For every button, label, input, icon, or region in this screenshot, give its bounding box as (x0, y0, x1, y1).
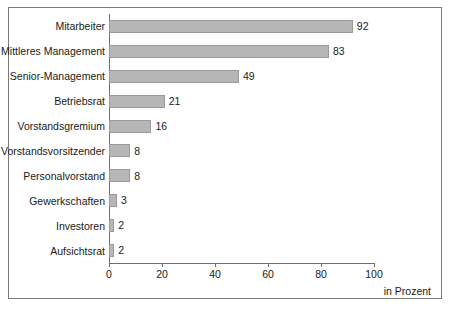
bar-value-label: 49 (243, 71, 255, 82)
x-tick-label: 80 (315, 268, 327, 280)
plot-area: 92 83 49 21 16 8 8 3 (109, 14, 374, 263)
bar-value-label: 92 (357, 21, 369, 32)
bar-row: 2 (109, 238, 374, 263)
category-label: Investoren (1, 213, 105, 238)
category-axis-labels: Mitarbeiter Mittleres Management Senior-… (0, 14, 105, 263)
bar-row: 21 (109, 89, 374, 114)
bar (109, 45, 329, 58)
x-tick-label: 0 (106, 268, 112, 280)
category-label: Senior-Management (1, 64, 105, 89)
x-axis-line (109, 263, 375, 264)
bar-row: 8 (109, 139, 374, 164)
x-tick-label: 100 (365, 268, 383, 280)
bar-value-label: 83 (333, 46, 345, 57)
category-label: Vorstandsgremium (1, 114, 105, 139)
x-tick-mark (109, 263, 110, 267)
bar-row: 83 (109, 39, 374, 64)
bar-chart: Mitarbeiter Mittleres Management Senior-… (0, 0, 451, 315)
x-tick-mark (215, 263, 216, 267)
bar (109, 95, 165, 108)
x-tick-mark (321, 263, 322, 267)
bar-value-label: 2 (118, 245, 124, 256)
bar (109, 169, 130, 182)
bar (109, 219, 114, 232)
category-label: Mittleres Management (1, 39, 105, 64)
bar-value-label: 16 (155, 121, 167, 132)
bar-value-label: 21 (169, 96, 181, 107)
x-tick-mark (374, 263, 375, 267)
bar (109, 244, 114, 257)
category-label: Personalvorstand (1, 163, 105, 188)
category-label: Aufsichtsrat (1, 238, 105, 263)
category-label: Gewerkschaften (1, 188, 105, 213)
x-tick-mark (268, 263, 269, 267)
bar-row: 92 (109, 14, 374, 39)
x-tick-label: 20 (156, 268, 168, 280)
category-label: Betriebsrat (1, 89, 105, 114)
bar-value-label: 8 (134, 146, 140, 157)
bar-row: 3 (109, 188, 374, 213)
x-axis-title: in Prozent (384, 285, 431, 297)
bar (109, 20, 353, 33)
bar (109, 70, 239, 83)
category-label: Mitarbeiter (1, 14, 105, 39)
category-label: Vorstandsvorsitzender (1, 139, 105, 164)
x-tick-label: 60 (262, 268, 274, 280)
bar-row: 8 (109, 163, 374, 188)
x-tick-mark (162, 263, 163, 267)
bar (109, 144, 130, 157)
bar-value-label: 8 (134, 171, 140, 182)
bar-row: 16 (109, 114, 374, 139)
bar-value-label: 3 (121, 195, 127, 206)
bar (109, 194, 117, 207)
bar-row: 49 (109, 64, 374, 89)
bar-value-label: 2 (118, 220, 124, 231)
bar (109, 120, 151, 133)
x-tick-label: 40 (209, 268, 221, 280)
bar-row: 2 (109, 213, 374, 238)
